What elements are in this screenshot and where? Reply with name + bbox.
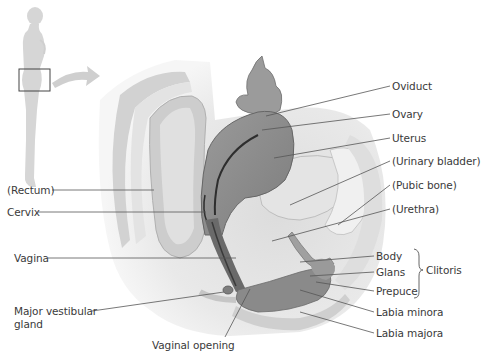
label-labia-majora: Labia majora (376, 327, 443, 339)
label-major-vestibular: Major vestibular (14, 305, 97, 317)
label-urinary-bladder: (Urinary bladder) (392, 155, 481, 167)
pelvic-section (99, 56, 386, 336)
locator-silhouette (19, 7, 100, 187)
label-gland: gland (14, 318, 43, 330)
label-rectum: (Rectum) (7, 184, 54, 196)
label-ovary: Ovary (392, 108, 423, 120)
label-glans: Glans (376, 266, 405, 278)
label-prepuce: Prepuce (376, 285, 418, 297)
label-oviduct: Oviduct (392, 80, 432, 92)
label-vaginal-opening: Vaginal opening (152, 339, 235, 351)
label-uterus: Uterus (392, 132, 426, 144)
label-urethra: (Urethra) (392, 203, 439, 215)
label-clitoris: Clitoris (426, 264, 462, 276)
label-cervix: Cervix (7, 206, 40, 218)
label-vagina: Vagina (14, 252, 49, 264)
label-labia-minora: Labia minora (376, 306, 443, 318)
label-pubic-bone: (Pubic bone) (392, 179, 457, 191)
label-body: Body (376, 250, 402, 262)
